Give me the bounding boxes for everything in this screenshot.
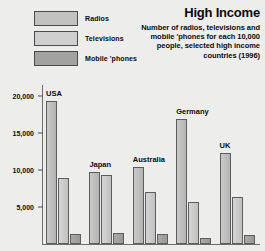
category-label-usa: USA <box>46 90 62 98</box>
chart-root: Radios Televisions Mobile 'phones High I… <box>0 0 265 251</box>
x-axis-line <box>42 244 260 245</box>
bar-usa-mobile <box>70 234 81 244</box>
bar-japan-radios <box>89 172 100 244</box>
bar-australia-tv <box>145 192 156 244</box>
y-tick-label: 20,000 <box>0 93 34 100</box>
bar-uk-radios <box>220 153 231 244</box>
bar-group: USA <box>46 85 89 244</box>
bar-japan-mobile <box>113 233 124 244</box>
legend-item-radios: Radios <box>34 10 137 27</box>
bar-group: Japan <box>89 85 132 244</box>
legend-label-televisions: Televisions <box>85 34 124 43</box>
legend-swatch-mobile-phones <box>34 51 78 66</box>
bar-uk-mobile <box>244 235 255 244</box>
plot-area: 5,00010,00015,00020,000 USAJapanAustrali… <box>42 85 260 245</box>
category-label-australia: Australia <box>133 156 165 164</box>
bar-group: UK <box>220 85 263 244</box>
y-tick-label: 5,000 <box>0 204 34 211</box>
legend-item-mobile-phones: Mobile 'phones <box>34 50 137 67</box>
category-label-germany: Germany <box>176 108 209 116</box>
category-label-japan: Japan <box>89 161 111 169</box>
legend-swatch-televisions <box>34 31 78 46</box>
bar-usa-radios <box>46 101 57 244</box>
chart-title: High Income <box>127 6 260 20</box>
bar-groups: USAJapanAustraliaGermanyUK <box>43 85 260 244</box>
bar-germany-mobile <box>200 238 211 244</box>
chart-subtitle: Number of radios, televisions and mobile… <box>127 23 260 60</box>
bar-germany-tv <box>188 202 199 244</box>
title-block: High Income Number of radios, television… <box>127 6 260 60</box>
bar-group: Australia <box>133 85 176 244</box>
bar-usa-tv <box>58 178 69 244</box>
category-label-uk: UK <box>220 142 231 150</box>
legend-item-televisions: Televisions <box>34 30 137 47</box>
chart-legend: Radios Televisions Mobile 'phones <box>34 10 137 70</box>
bar-germany-radios <box>176 119 187 244</box>
y-tick-label: 10,000 <box>0 167 34 174</box>
bar-japan-tv <box>101 175 112 244</box>
bar-uk-tv <box>232 197 243 244</box>
legend-label-radios: Radios <box>85 14 109 23</box>
bar-group: Germany <box>176 85 219 244</box>
bar-australia-mobile <box>157 234 168 244</box>
bar-australia-radios <box>133 167 144 244</box>
y-tick-label: 15,000 <box>0 130 34 137</box>
legend-swatch-radios <box>34 11 78 26</box>
